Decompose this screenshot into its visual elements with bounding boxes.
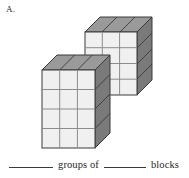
lower-left-stack <box>42 55 110 148</box>
answer-blank-groups[interactable] <box>9 158 53 168</box>
prompt-label-blocks: blocks <box>151 158 179 172</box>
prompt-label-groups-of: groups of <box>58 158 99 172</box>
blocks-figure <box>0 8 189 156</box>
answer-prompt: groups of blocks <box>0 158 189 174</box>
answer-blank-blocks[interactable] <box>104 158 146 168</box>
block-stacks-illustration <box>0 8 189 156</box>
worksheet-item: A. <box>0 0 189 178</box>
